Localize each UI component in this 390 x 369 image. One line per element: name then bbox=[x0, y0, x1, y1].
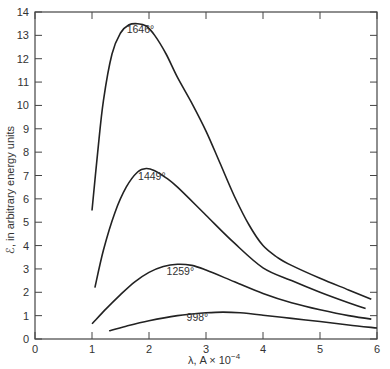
curve-label: 998° bbox=[187, 311, 209, 323]
y-tick-label: 7 bbox=[23, 170, 29, 182]
curve-1449 bbox=[95, 168, 366, 308]
x-tick-label: 6 bbox=[374, 343, 380, 355]
y-tick-label: 1 bbox=[23, 310, 29, 322]
y-tick-label: 6 bbox=[23, 193, 29, 205]
y-tick-label: 12 bbox=[17, 53, 29, 65]
plot-frame bbox=[35, 12, 377, 339]
y-tick-label: 2 bbox=[23, 286, 29, 298]
y-tick-label: 14 bbox=[17, 6, 29, 18]
curve-label: 1259° bbox=[167, 265, 195, 277]
x-axis-ticks: 0123456 bbox=[32, 12, 380, 355]
x-axis-label: λ, A × 10−4 bbox=[188, 352, 241, 366]
x-tick-label: 0 bbox=[32, 343, 38, 355]
curve-label: 1646° bbox=[127, 23, 155, 35]
x-tick-label: 5 bbox=[317, 343, 323, 355]
curve-1646 bbox=[92, 24, 371, 300]
y-tick-label: 3 bbox=[23, 263, 29, 275]
curve-label: 1449° bbox=[138, 170, 166, 182]
curves bbox=[92, 24, 377, 331]
chart-container: 01234567891011121314 0123456 1646°1449°1… bbox=[0, 0, 390, 369]
y-tick-label: 8 bbox=[23, 146, 29, 158]
y-tick-label: 0 bbox=[23, 333, 29, 345]
y-tick-label: 11 bbox=[18, 76, 29, 88]
x-tick-label: 2 bbox=[146, 343, 152, 355]
y-tick-label: 13 bbox=[17, 29, 29, 41]
y-tick-label: 4 bbox=[23, 240, 29, 252]
x-tick-label: 4 bbox=[260, 343, 266, 355]
y-tick-label: 5 bbox=[23, 216, 29, 228]
energy-wavelength-chart: 01234567891011121314 0123456 1646°1449°1… bbox=[0, 0, 390, 369]
curve-998 bbox=[109, 312, 377, 331]
curve-1259 bbox=[92, 264, 371, 324]
y-tick-label: 9 bbox=[23, 123, 29, 135]
x-tick-label: 1 bbox=[89, 343, 95, 355]
plot-border bbox=[35, 12, 377, 339]
y-tick-label: 10 bbox=[17, 99, 29, 111]
y-axis-label: ℰ, in arbitrary energy units bbox=[4, 125, 16, 254]
